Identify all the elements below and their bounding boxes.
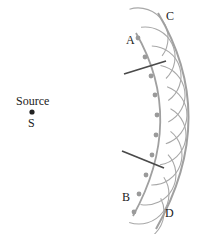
wavelet-source-dot [143,55,148,60]
wavelet-source-dot [149,74,154,79]
wavelet-source-dot [153,93,158,98]
source-point [29,109,34,114]
source-symbol: S [28,116,35,130]
wavelet-source-points [132,36,160,215]
wavelet-source-dot [154,133,159,138]
ray-upper [124,61,166,74]
source-label: Source [16,94,49,108]
wavelet-source-dot [137,192,142,197]
label-a: A [126,33,135,47]
wavelet-source-dot [150,153,155,158]
label-d: D [165,206,174,220]
wavelet-source-dot [132,210,137,215]
wavefront-ab [133,33,160,216]
wavelet-arc [166,87,187,144]
label-c: C [166,9,174,23]
wavelet-source-dot [144,173,149,178]
wavelet-source-dot [155,113,160,118]
label-b: B [122,190,130,204]
huygens-diagram: Source S A B C D [0,0,206,234]
wavelet-source-dot [136,36,141,41]
